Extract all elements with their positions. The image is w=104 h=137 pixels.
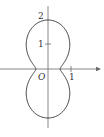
origin-label: O [38,72,46,82]
y-tick-label-2: 2 [38,11,44,21]
y-tick-label-1: 1 [38,39,44,49]
x-tick-label-1: 1 [69,72,75,82]
polar-plot: 2 1 O 1 [0,0,104,137]
